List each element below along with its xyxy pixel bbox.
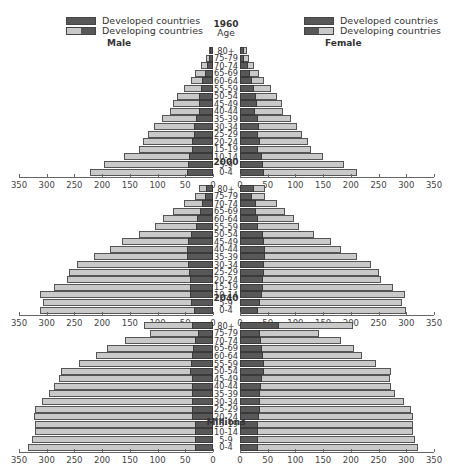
developing-segment xyxy=(28,444,195,451)
developed-segment xyxy=(191,360,213,367)
developing-segment xyxy=(264,246,341,253)
male-tick-label: 200 xyxy=(87,318,117,328)
female-bar xyxy=(240,185,265,192)
developing-segment xyxy=(255,93,278,100)
developing-segment xyxy=(150,330,199,337)
female-bar xyxy=(240,238,331,245)
developing-segment xyxy=(257,307,405,314)
developing-segment xyxy=(124,153,190,160)
developed-segment xyxy=(240,231,263,238)
developing-segment xyxy=(96,352,193,359)
female-bar xyxy=(240,421,413,428)
female-bar xyxy=(240,231,314,238)
developed-segment xyxy=(240,428,258,435)
developed-segment xyxy=(240,47,244,54)
male-bar xyxy=(35,428,213,435)
female-bar xyxy=(240,390,395,397)
developed-segment xyxy=(201,85,213,92)
developed-segment xyxy=(240,115,258,122)
female-bar xyxy=(240,436,415,443)
developing-segment xyxy=(35,406,193,413)
male-bar xyxy=(42,398,213,405)
developing-segment xyxy=(59,375,193,382)
female-bar xyxy=(240,47,247,54)
developed-segment xyxy=(195,337,213,344)
developing-segment xyxy=(173,100,199,107)
developing-segment xyxy=(255,200,277,207)
developing-segment xyxy=(110,246,187,253)
legend-label: Developing countries xyxy=(340,26,441,36)
female-bar xyxy=(240,215,294,222)
male-bar xyxy=(154,123,213,130)
developed-segment xyxy=(240,345,262,352)
developing-segment xyxy=(49,390,193,397)
developed-segment xyxy=(192,398,213,405)
male-bar xyxy=(96,352,213,359)
age-header: Age xyxy=(204,28,248,38)
female-bar xyxy=(240,406,411,413)
developing-segment xyxy=(259,390,395,397)
female-tick-label: 300 xyxy=(391,180,421,190)
developed-swatch xyxy=(66,17,96,25)
female-axis-tick xyxy=(406,174,407,177)
male-tick-label: 200 xyxy=(87,180,117,190)
male-axis-tick xyxy=(213,174,214,177)
male-axis-tick xyxy=(74,174,75,177)
male-tick-label: 150 xyxy=(115,318,145,328)
developed-segment xyxy=(240,146,258,153)
male-tick-label: 300 xyxy=(32,455,62,465)
female-axis-tick xyxy=(351,312,352,315)
female-axis-tick xyxy=(268,312,269,315)
developed-segment xyxy=(207,62,213,69)
developed-segment xyxy=(240,269,264,276)
developed-segment xyxy=(195,436,213,443)
female-tick-label: 150 xyxy=(308,180,338,190)
developing-segment xyxy=(261,345,354,352)
male-bar xyxy=(35,421,213,428)
panel-year: 2000 xyxy=(204,157,248,167)
developed-segment xyxy=(240,208,256,215)
female-bar xyxy=(240,322,353,329)
developing-segment xyxy=(263,169,357,176)
male-bar xyxy=(184,85,213,92)
female-label: Female xyxy=(325,38,362,48)
developing-segment xyxy=(259,138,308,145)
developing-segment xyxy=(257,215,294,222)
developing-segment xyxy=(262,161,344,168)
developed-segment xyxy=(240,131,258,138)
male-bar xyxy=(122,238,213,245)
female-axis-tick xyxy=(379,174,380,177)
developing-segment xyxy=(263,368,391,375)
male-bar xyxy=(206,55,213,62)
female-axis-tick xyxy=(351,174,352,177)
female-bar xyxy=(240,131,302,138)
developing-segment xyxy=(254,108,283,115)
female-tick-label: 300 xyxy=(391,318,421,328)
developing-segment xyxy=(139,146,193,153)
female-axis-tick xyxy=(268,174,269,177)
developed-segment xyxy=(192,138,213,145)
developing-segment xyxy=(259,330,319,337)
male-tick-label: 350 xyxy=(4,318,34,328)
developed-segment xyxy=(209,55,213,62)
developed-segment xyxy=(192,375,213,382)
developing-segment xyxy=(162,115,197,122)
male-axis-tick xyxy=(47,174,48,177)
developing-segment xyxy=(258,123,297,130)
developing-segment xyxy=(54,383,194,390)
female-axis-tick xyxy=(434,449,435,452)
female-bar xyxy=(240,269,379,276)
developed-segment xyxy=(240,200,256,207)
female-axis-tick xyxy=(240,312,241,315)
developed-segment xyxy=(198,330,213,337)
developing-segment xyxy=(259,398,404,405)
developed-segment xyxy=(240,77,252,84)
developed-segment xyxy=(240,100,257,107)
developed-segment xyxy=(192,406,213,413)
developed-segment xyxy=(196,223,213,230)
developed-segment xyxy=(240,62,248,69)
female-tick-label: 250 xyxy=(364,180,394,190)
female-tick-label: 350 xyxy=(419,318,449,328)
developed-segment xyxy=(195,444,213,451)
male-axis-tick xyxy=(158,174,159,177)
